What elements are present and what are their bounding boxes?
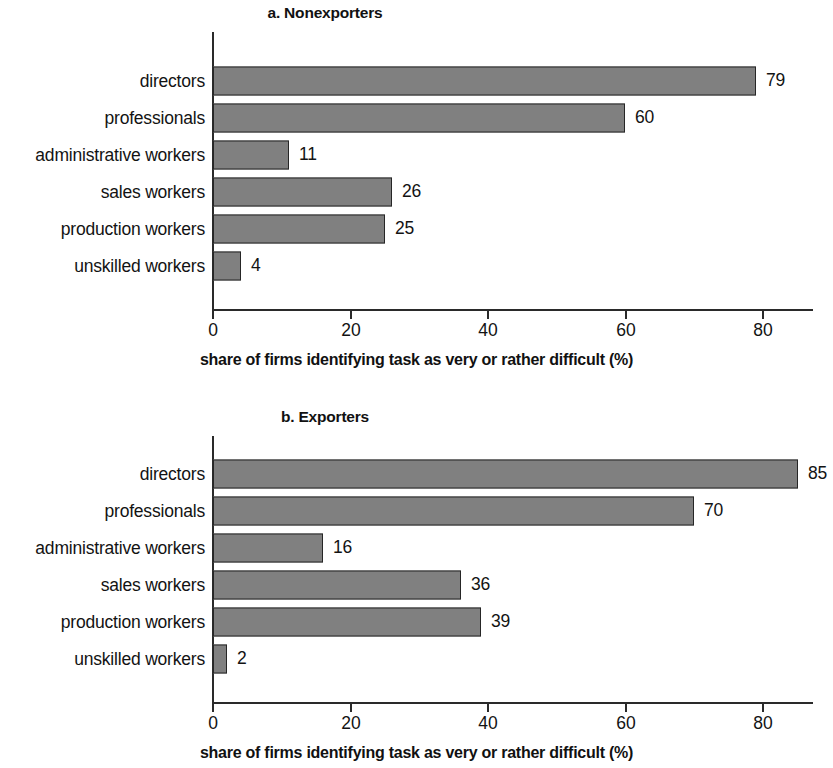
bar-value-label: 85 [808, 463, 827, 484]
bar [213, 66, 756, 95]
tick-label: 60 [616, 320, 635, 341]
bar [213, 644, 227, 673]
bar [213, 496, 694, 525]
table-row: unskilled workers 2 [0, 640, 833, 677]
x-axis-title: share of firms identifying task as very … [0, 744, 833, 762]
panel-title: b. Exporters [0, 408, 650, 426]
bar-value-label: 36 [471, 574, 490, 595]
category-label: directors [140, 70, 205, 91]
x-axis-ticks: 0 20 40 60 80 [0, 704, 833, 734]
category-label: unskilled workers [74, 255, 205, 276]
category-label: production workers [61, 611, 205, 632]
bar [213, 103, 625, 132]
tick-mark [350, 704, 352, 712]
x-axis-ticks: 0 20 40 60 80 [0, 311, 833, 341]
tick-mark [762, 311, 764, 319]
bar-value-label: 26 [402, 181, 421, 202]
tick-label: 20 [341, 320, 360, 341]
tick-mark [212, 704, 214, 712]
bar-value-label: 4 [251, 255, 261, 276]
category-label: directors [140, 463, 205, 484]
tick-mark [762, 704, 764, 712]
bar [213, 459, 798, 488]
category-label: production workers [61, 218, 205, 239]
bar [213, 570, 461, 599]
bar-value-label: 70 [704, 500, 723, 521]
bar-value-label: 25 [395, 218, 414, 239]
bar [213, 251, 241, 280]
tick-mark [350, 311, 352, 319]
chart-panel-exporters: b. Exporters directors 85 professionals … [0, 384, 833, 768]
bar [213, 533, 323, 562]
table-row: directors 79 [0, 62, 833, 99]
category-label: sales workers [101, 181, 205, 202]
panel-title: a. Nonexporters [0, 4, 650, 22]
bar-value-label: 79 [766, 70, 785, 91]
bar-value-label: 11 [299, 144, 317, 165]
category-label: unskilled workers [74, 648, 205, 669]
table-row: administrative workers 11 [0, 136, 833, 173]
bar-value-label: 60 [635, 107, 654, 128]
tick-mark [625, 704, 627, 712]
bar [213, 214, 385, 243]
tick-label: 0 [208, 320, 218, 341]
tick-label: 0 [208, 713, 218, 734]
figure-bar-charts: a. Nonexporters directors 79 professiona… [0, 0, 833, 768]
category-label: professionals [104, 500, 205, 521]
table-row: administrative workers 16 [0, 529, 833, 566]
bar [213, 607, 481, 636]
bar-rows: directors 79 professionals 60 administra… [0, 62, 833, 284]
table-row: production workers 39 [0, 603, 833, 640]
tick-label: 60 [616, 713, 635, 734]
table-row: unskilled workers 4 [0, 247, 833, 284]
bar-value-label: 2 [237, 648, 247, 669]
category-label: professionals [104, 107, 205, 128]
tick-mark [487, 704, 489, 712]
tick-label: 20 [341, 713, 360, 734]
tick-mark [625, 311, 627, 319]
bar-value-label: 16 [333, 537, 352, 558]
table-row: production workers 25 [0, 210, 833, 247]
tick-label: 40 [478, 320, 497, 341]
tick-mark [487, 311, 489, 319]
tick-mark [212, 311, 214, 319]
plot-area-nonexporters: directors 79 professionals 60 administra… [0, 22, 833, 342]
table-row: directors 85 [0, 455, 833, 492]
table-row: professionals 70 [0, 492, 833, 529]
table-row: professionals 60 [0, 99, 833, 136]
plot-area-exporters: directors 85 professionals 70 administra… [0, 426, 833, 746]
table-row: sales workers 36 [0, 566, 833, 603]
bar-rows: directors 85 professionals 70 administra… [0, 455, 833, 677]
tick-label: 40 [478, 713, 497, 734]
bar-value-label: 39 [491, 611, 510, 632]
category-label: sales workers [101, 574, 205, 595]
bar [213, 140, 289, 169]
category-label: administrative workers [35, 537, 205, 558]
table-row: sales workers 26 [0, 173, 833, 210]
tick-label: 80 [753, 320, 772, 341]
tick-label: 80 [753, 713, 772, 734]
category-label: administrative workers [35, 144, 205, 165]
chart-panel-nonexporters: a. Nonexporters directors 79 professiona… [0, 0, 833, 384]
bar [213, 177, 392, 206]
x-axis-title: share of firms identifying task as very … [0, 351, 833, 369]
